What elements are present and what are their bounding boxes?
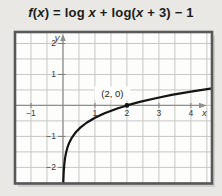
plot-area	[15, 32, 212, 184]
y-tick-label: 1	[51, 69, 56, 79]
point-label: (2, 0)	[101, 88, 123, 99]
x-tick-label: 3	[157, 108, 162, 118]
y-tick-label: −1	[46, 131, 56, 141]
point-dot	[125, 103, 130, 108]
x-tick-label: −1	[26, 108, 36, 118]
function-graph: −1123421−1−2yx(2, 0)	[0, 0, 222, 196]
x-tick-label: 2	[125, 108, 130, 118]
figure-page: f(x) = log x + log(x + 3) − 1 −1123421−1…	[0, 0, 222, 196]
x-tick-label: 4	[189, 108, 194, 118]
y-tick-label: −2	[46, 162, 56, 172]
